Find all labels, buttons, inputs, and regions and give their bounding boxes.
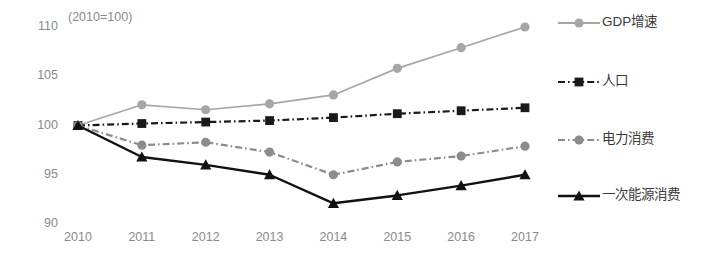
data-point-marker (393, 157, 402, 166)
x-tick-label: 2016 (447, 230, 475, 244)
legend-item-3[interactable]: 电力消费 (556, 130, 708, 149)
data-point-marker (201, 105, 210, 114)
data-point-marker (265, 116, 274, 125)
data-point-marker (137, 141, 146, 150)
legend-item-4[interactable]: 一次能源消费 (556, 186, 708, 205)
x-tick-label: 2012 (192, 230, 220, 244)
legend-label: 电力消费 (602, 130, 654, 148)
legend-key-swatch (556, 187, 602, 205)
legend-item-2[interactable]: 人口 (556, 72, 708, 91)
x-tick-label: 2013 (256, 230, 284, 244)
legend-item-1[interactable]: GDP增速 (556, 13, 708, 32)
y-tick-label: 100 (24, 119, 58, 132)
data-point-marker (265, 99, 274, 108)
legend-label: 人口 (602, 72, 628, 90)
x-tick-label: 2014 (320, 230, 348, 244)
x-tick-label: 2011 (128, 230, 155, 244)
legend-label: 一次能源消费 (602, 186, 680, 204)
plot-area: (2010=100) 9095100105110 201020112012201… (0, 0, 560, 253)
data-point-marker (201, 138, 210, 147)
data-point-marker (574, 18, 583, 27)
y-tick-label: 95 (24, 168, 58, 181)
x-tick-label: 2015 (383, 230, 411, 244)
y-tick-label: 110 (24, 20, 58, 33)
base-year-annotation: (2010=100) (68, 10, 132, 24)
legend-key-swatch (556, 131, 602, 149)
data-point-marker (201, 118, 210, 127)
data-point-marker (574, 135, 583, 144)
y-tick-label: 105 (24, 69, 58, 82)
data-point-marker (137, 100, 146, 109)
x-tick-label: 2010 (64, 230, 92, 244)
data-point-marker (137, 119, 146, 128)
data-point-marker (393, 64, 402, 73)
data-point-marker (329, 170, 338, 179)
data-point-marker (393, 109, 402, 118)
y-axis: 9095100105110 (20, 0, 58, 253)
series-layer (72, 22, 530, 208)
line-chart: (2010=100) 9095100105110 201020112012201… (0, 0, 708, 253)
data-point-marker (520, 22, 529, 31)
data-point-marker (521, 103, 530, 112)
legend-key-swatch (556, 73, 602, 91)
series-3 (73, 121, 529, 179)
data-point-marker (457, 151, 466, 160)
legend-label: GDP增速 (602, 13, 657, 31)
data-point-marker (329, 113, 338, 122)
data-point-marker (329, 90, 338, 99)
data-point-marker (457, 43, 466, 52)
chart-legend: GDP增速人口电力消费一次能源消费 (556, 0, 708, 253)
data-point-marker (520, 142, 529, 151)
data-point-marker (265, 147, 274, 156)
x-axis: 20102011201220132014201520162017 (0, 224, 560, 248)
series-line (78, 126, 525, 175)
data-point-marker (575, 78, 584, 87)
legend-key-swatch (556, 14, 602, 32)
chart-canvas (0, 0, 560, 253)
data-point-marker (457, 106, 466, 115)
x-tick-label: 2017 (511, 230, 539, 244)
